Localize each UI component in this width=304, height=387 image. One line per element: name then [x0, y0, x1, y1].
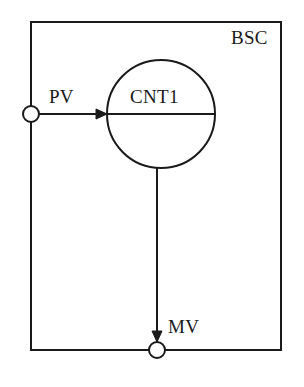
- mv-port-circle[interactable]: [149, 342, 165, 358]
- bsc-block-label: BSC: [231, 28, 268, 47]
- mv-port-label: MV: [168, 317, 199, 336]
- cnt1-block-label: CNT1: [130, 87, 179, 106]
- diagram-graphics: [0, 0, 304, 387]
- pv-port-circle[interactable]: [23, 106, 39, 122]
- pv-port-label: PV: [49, 87, 74, 106]
- diagram-canvas: BSC PV CNT1 MV: [0, 0, 304, 387]
